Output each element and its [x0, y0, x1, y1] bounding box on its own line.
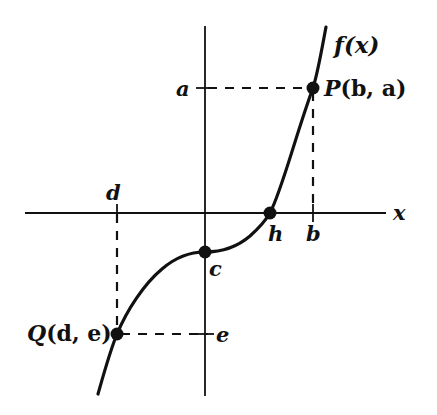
point-label-p: P(b, a)	[324, 77, 406, 99]
function-curve	[98, 27, 326, 394]
point-label-p-name: P	[324, 75, 341, 101]
point-q	[111, 328, 124, 341]
point-label-q-coords: (d, e)	[46, 320, 112, 346]
point-p	[307, 82, 320, 95]
point-label-q: Q(d, e)	[27, 322, 112, 344]
point-label-c: c	[209, 258, 222, 279]
point-label-h: h	[268, 223, 283, 244]
point-h	[264, 207, 277, 220]
point-label-q-name: Q	[27, 320, 46, 346]
graph-canvas	[0, 0, 437, 415]
axis-value-label-e: e	[216, 324, 229, 345]
axis-value-label-b: b	[306, 223, 321, 244]
axis-value-label-d: d	[106, 182, 121, 203]
axis-value-label-a: a	[176, 78, 190, 99]
math-figure: f(x) a P(b, a) d x h b c Q(d, e) e	[0, 0, 437, 415]
x-axis-label: x	[393, 202, 406, 223]
point-label-p-coords: (b, a)	[341, 75, 407, 101]
function-label: f(x)	[334, 33, 379, 56]
